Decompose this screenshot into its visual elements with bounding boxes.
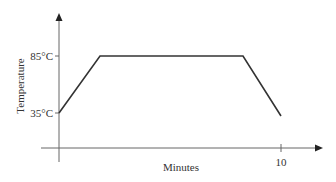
temperature-chart: 85°C 35°C 10 Minutes Temperature (0, 0, 336, 182)
y-axis-label: Temperature (14, 58, 26, 114)
y-axis-arrow-icon (56, 13, 63, 21)
temperature-profile-line (59, 56, 281, 116)
x-axis-label: Minutes (163, 161, 199, 173)
y-tick-label-85: 85°C (30, 50, 53, 62)
x-tick-label-10: 10 (276, 156, 288, 168)
y-tick-label-35: 35°C (30, 107, 53, 119)
x-axis-arrow-icon (315, 145, 323, 152)
